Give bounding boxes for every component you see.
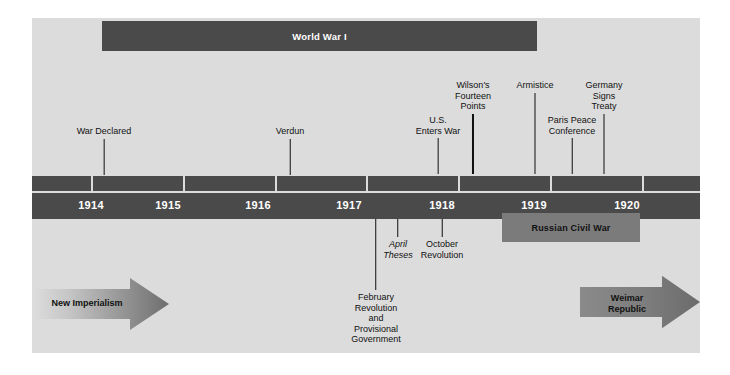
era-label-new-imperialism: New Imperialism [44,298,130,309]
event-stem-paris-peace-conference [571,138,572,174]
event-war-declared: War Declared [77,126,132,175]
era-label-weimar-republic-line2: Republic [608,304,646,314]
event-label-february-revolution-line5: Government [351,334,401,345]
event-label-germany-signs-treaty-line3: Treaty [585,101,622,112]
era-label-weimar-republic: Weimar Republic [596,293,658,315]
axis-tick-1916 [275,176,277,191]
axis-year-label-1919: 1919 [521,199,547,211]
event-label-war-declared: War Declared [77,126,132,137]
timeline-axis-ticks [32,176,700,191]
event-october-revolution: October Revolution [421,219,464,260]
axis-year-label-1918: 1918 [429,199,455,211]
event-label-us-enters-war-line1: U.S. [416,115,461,126]
timeline-figure: World War I War Declared Verdun U.S. Ent… [0,0,730,375]
event-label-february-revolution-line1: February [351,292,401,303]
event-stem-february-revolution [375,219,376,290]
axis-year-label-1917: 1917 [336,199,362,211]
event-label-october-revolution-line2: Revolution [421,250,464,261]
span-bar-world-war-i: World War I [102,21,537,51]
axis-tick-1917 [366,176,368,191]
axis-year-label-1914: 1914 [78,199,104,211]
axis-tick-1914 [91,176,93,191]
axis-tick-1919 [550,176,552,191]
event-label-armistice: Armistice [516,80,553,91]
event-label-germany-signs-treaty-line1: Germany [585,80,622,91]
span-label-world-war-i: World War I [292,31,346,42]
era-arrow-new-imperialism: New Imperialism [34,276,169,332]
event-label-verdun: Verdun [276,126,305,137]
event-label-wilsons-fourteen-points-line3: Points [455,101,491,112]
event-label-germany-signs-treaty-line2: Signs [585,91,622,102]
axis-tick-1920 [642,176,644,191]
event-april-theses: April Theses [383,219,413,260]
event-stem-wilsons-fourteen-points [472,114,473,174]
event-stem-germany-signs-treaty [603,114,604,174]
event-label-february-revolution-line4: Provisional [351,324,401,335]
axis-year-label-1915: 1915 [155,199,181,211]
event-label-october-revolution-line1: October [421,239,464,250]
era-arrow-weimar-republic: Weimar Republic [580,274,700,330]
event-stem-april-theses [397,219,398,237]
event-stem-armistice [534,93,535,174]
span-bar-russian-civil-war: Russian Civil War [502,213,640,242]
axis-year-label-1920: 1920 [614,199,640,211]
event-stem-us-enters-war [437,138,438,174]
event-label-wilsons-fourteen-points-line1: Wilson's [455,80,491,91]
event-stem-october-revolution [441,219,442,237]
axis-tick-1918 [458,176,460,191]
event-label-us-enters-war-line2: Enters War [416,126,461,137]
event-label-april-theses-line2: Theses [383,250,413,261]
event-stem-war-declared [103,139,104,175]
span-label-russian-civil-war: Russian Civil War [531,223,610,233]
event-us-enters-war: U.S. Enters War [416,115,461,174]
event-label-february-revolution-line2: Revolution [351,303,401,314]
event-label-february-revolution-line3: and [351,313,401,324]
axis-tick-1915 [183,176,185,191]
event-germany-signs-treaty: Germany Signs Treaty [585,80,622,174]
axis-year-label-1916: 1916 [245,199,271,211]
event-verdun: Verdun [276,126,305,175]
era-label-weimar-republic-line1: Weimar [611,293,643,303]
event-label-april-theses-line1: April [383,239,413,250]
event-stem-verdun [289,139,290,175]
event-wilsons-fourteen-points: Wilson's Fourteen Points [455,80,491,174]
figure-panel: World War I War Declared Verdun U.S. Ent… [32,18,700,353]
event-label-wilsons-fourteen-points-line2: Fourteen [455,91,491,102]
